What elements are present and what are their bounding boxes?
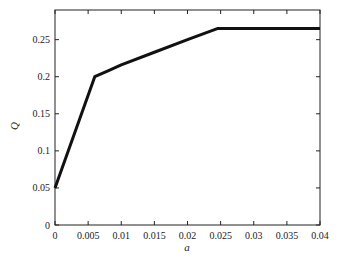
y-tick-label: 0.05: [33, 182, 51, 193]
x-axis-ticks: 00.0050.010.0150.020.0250.030.0350.04: [53, 10, 329, 241]
y-tick-label: 0.2: [38, 71, 51, 82]
x-tick-label: 0.035: [276, 230, 299, 241]
y-tick-label: 0.1: [38, 145, 51, 156]
x-tick-label: 0.04: [311, 230, 329, 241]
y-tick-label: 0.15: [33, 108, 51, 119]
chart: 00.0050.010.0150.020.0250.030.0350.04 00…: [0, 0, 338, 266]
x-tick-label: 0.01: [113, 230, 131, 241]
y-tick-label: 0: [45, 220, 50, 231]
x-tick-label: 0: [53, 230, 58, 241]
series-line-q: [55, 29, 320, 188]
y-tick-label: 0.25: [33, 34, 51, 45]
x-tick-label: 0.03: [245, 230, 263, 241]
plot-frame: [55, 10, 320, 225]
x-tick-label: 0.025: [209, 230, 232, 241]
x-axis-label: a: [184, 241, 190, 253]
x-tick-label: 0.015: [143, 230, 166, 241]
y-axis-label: Q: [8, 122, 20, 130]
x-tick-label: 0.005: [77, 230, 100, 241]
x-tick-label: 0.02: [179, 230, 197, 241]
